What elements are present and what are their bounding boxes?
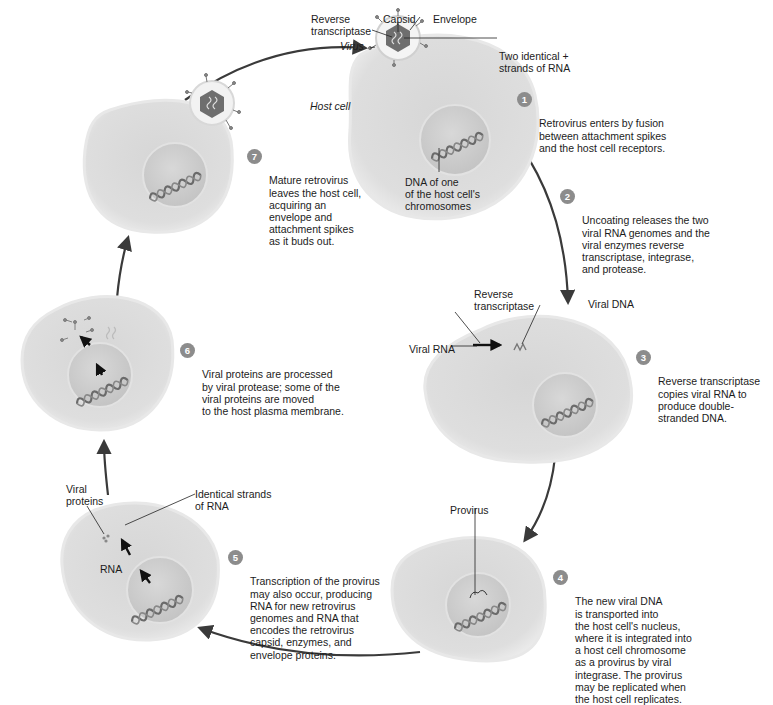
step-3-badge: 3 xyxy=(636,350,651,365)
step-7-description: 7 Mature retrovirus leaves the host cell… xyxy=(247,150,361,248)
label-reverse-transcriptase-step3: Reverse transcriptase xyxy=(474,288,534,312)
label-provirus: Provirus xyxy=(450,504,489,516)
step-2-description: 2 Uncoating releases the two viral RNA g… xyxy=(560,190,710,275)
step-2-badge: 2 xyxy=(560,189,575,204)
step-7-text: Mature retrovirus leaves the host cell, … xyxy=(269,174,361,247)
label-viral-dna: Viral DNA xyxy=(588,298,634,310)
label-reverse-transcriptase-top: Reverse transcriptase xyxy=(311,13,371,37)
step-5-description: 5 Transcription of the provirus may also… xyxy=(228,551,380,661)
cell-step-3 xyxy=(425,305,632,462)
label-viral-rna: Viral RNA xyxy=(409,343,455,355)
step-5-badge: 5 xyxy=(228,550,243,565)
label-capsid: Capsid xyxy=(383,13,416,25)
step-4-text: The new viral DNA is transported into th… xyxy=(575,595,692,705)
step-6-text: Viral proteins are processed by viral pr… xyxy=(202,368,344,417)
step-3-description: 3 Reverse transcriptase copies viral RNA… xyxy=(636,351,760,424)
step-1-text: Retrovirus enters by fusion between atta… xyxy=(539,117,666,153)
step-4-description: 4 The new viral DNA is transported into … xyxy=(553,571,692,705)
step-5-text: Transcription of the provirus may also o… xyxy=(250,575,380,660)
cell-step-7 xyxy=(84,74,240,233)
label-dna-of-host: DNA of one of the host cell's chromosome… xyxy=(405,176,480,212)
label-host-cell: Host cell xyxy=(310,100,350,112)
step-6-badge: 6 xyxy=(180,343,195,358)
cell-step-6 xyxy=(22,297,173,430)
label-viral-proteins: Viral proteins xyxy=(66,483,103,507)
step-6-description: 6 Viral proteins are processed by viral … xyxy=(180,344,344,417)
step-2-text: Uncoating releases the two viral RNA gen… xyxy=(582,214,710,275)
cell-step-4 xyxy=(392,508,545,661)
step-4-badge: 4 xyxy=(553,570,568,585)
step-1-badge: 1 xyxy=(517,92,532,107)
label-virus: Virus xyxy=(340,40,364,52)
step-1-description: 1 Retrovirus enters by fusion between at… xyxy=(517,93,666,154)
label-rna: RNA xyxy=(100,563,122,575)
label-identical-strands: Identical strands of RNA xyxy=(195,488,271,512)
cell-step-5 xyxy=(62,494,219,640)
step-7-badge: 7 xyxy=(247,149,262,164)
step-3-text: Reverse transcriptase copies viral RNA t… xyxy=(658,375,760,424)
label-two-identical-rna: Two identical + strands of RNA xyxy=(499,50,570,74)
label-envelope: Envelope xyxy=(433,13,477,25)
